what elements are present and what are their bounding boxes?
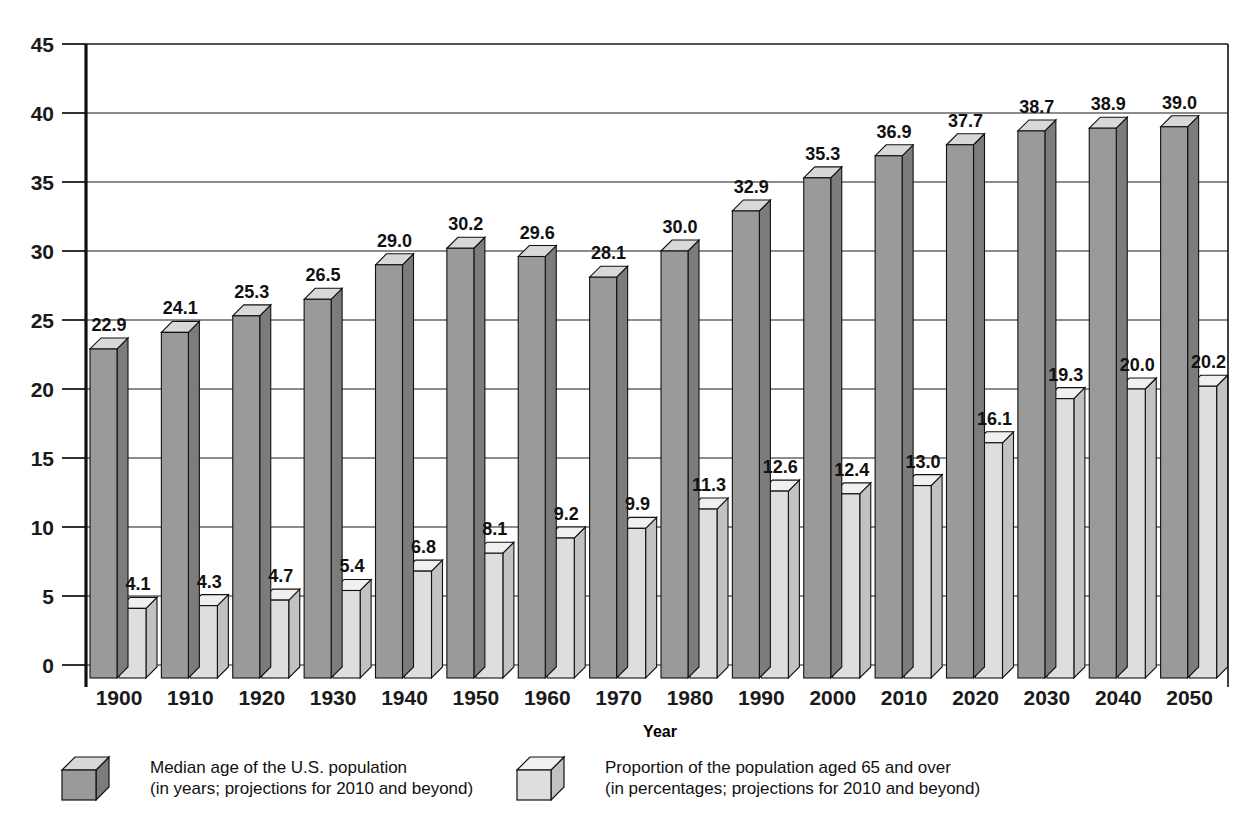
bar-front-face	[590, 277, 617, 678]
bar-value-label: 30.2	[448, 214, 483, 234]
bar-value-label: 19.3	[1048, 365, 1083, 385]
x-axis-tick-label: 1970	[595, 686, 642, 709]
bar-side-face	[360, 579, 371, 678]
bar-side-face	[217, 595, 228, 678]
bar-side-face	[1145, 378, 1156, 678]
bar-value-label: 16.1	[977, 409, 1012, 429]
bar-median-age[interactable]	[1161, 116, 1199, 678]
bar-side-face	[1188, 116, 1199, 678]
bar-median-age[interactable]	[947, 134, 985, 678]
bar-value-label: 24.1	[163, 298, 198, 318]
bar-side-face	[188, 321, 199, 678]
y-axis-tick-label: 35	[31, 171, 55, 194]
y-axis-tick-label: 5	[42, 585, 54, 608]
bar-value-label: 12.6	[763, 457, 798, 477]
bar-median-age[interactable]	[518, 246, 556, 678]
bar-median-age[interactable]	[1089, 117, 1127, 678]
bar-side-face	[117, 338, 128, 678]
x-axis-tick-label: 1930	[310, 686, 357, 709]
bar-side-face	[688, 240, 699, 678]
x-axis-tick-label: 2040	[1095, 686, 1142, 709]
bar-value-label: 12.4	[834, 460, 869, 480]
y-axis-tick-label: 40	[31, 102, 54, 125]
bar-value-label: 4.7	[268, 566, 293, 586]
bar-front-face	[804, 178, 831, 678]
bar-side-face	[1217, 375, 1228, 678]
bars-group	[90, 116, 1228, 678]
y-axis-tick-label: 10	[31, 516, 54, 539]
bar-side-face	[1045, 120, 1056, 678]
bar-value-label: 28.1	[591, 243, 626, 263]
bar-front-face	[1161, 127, 1188, 678]
y-axis-tick-label: 45	[31, 33, 55, 56]
bar-front-face	[304, 299, 331, 678]
x-axis-tick-label: 2030	[1024, 686, 1071, 709]
bar-side-face	[331, 288, 342, 678]
bar-median-age[interactable]	[447, 237, 485, 678]
bar-median-age[interactable]	[661, 240, 699, 678]
bar-side-face	[289, 589, 300, 678]
x-axis-tick-label: 1910	[167, 686, 214, 709]
bar-value-label: 32.9	[734, 177, 769, 197]
bar-side-face	[831, 167, 842, 678]
bar-front-face	[161, 332, 188, 678]
bar-side-face	[1116, 117, 1127, 678]
x-axis-tick-label: 1950	[453, 686, 500, 709]
bar-side-face	[860, 483, 871, 678]
bar-median-age[interactable]	[590, 266, 628, 678]
bar-median-age[interactable]	[233, 305, 271, 678]
legend-label-median-age: Median age of the U.S. population (in ye…	[150, 757, 473, 799]
bar-front-face	[90, 349, 117, 678]
bar-side-face	[403, 254, 414, 678]
legend-cube-front	[517, 770, 551, 800]
y-axis-tick-label: 20	[31, 378, 54, 401]
bar-median-age[interactable]	[732, 200, 770, 678]
bar-value-label: 4.1	[125, 574, 150, 594]
x-axis-tick-label: 1920	[238, 686, 285, 709]
bar-side-face	[788, 480, 799, 678]
bar-side-face	[1003, 432, 1014, 678]
bar-front-face	[376, 265, 403, 678]
bar-front-face	[233, 316, 260, 678]
x-axis-labels-group: 2050204020302020201020001990198019701960…	[96, 686, 1213, 709]
legend-swatch-median-age	[62, 757, 109, 800]
bar-median-age[interactable]	[376, 254, 414, 678]
bar-value-label: 8.1	[482, 519, 507, 539]
bar-median-age[interactable]	[304, 288, 342, 678]
bar-median-age[interactable]	[161, 321, 199, 678]
x-axis-tick-label: 2010	[881, 686, 928, 709]
bar-value-label: 36.9	[877, 122, 912, 142]
bar-side-face	[759, 200, 770, 678]
bar-side-face	[474, 237, 485, 678]
bar-front-face	[947, 145, 974, 678]
x-axis-tick-label: 2020	[952, 686, 999, 709]
bar-value-label: 5.4	[340, 556, 365, 576]
bar-value-label: 11.3	[692, 475, 726, 495]
bar-value-label: 25.3	[234, 282, 269, 302]
bar-value-label: 20.2	[1191, 352, 1226, 372]
bar-median-age[interactable]	[1018, 120, 1056, 678]
bar-value-label: 9.9	[625, 494, 650, 514]
bar-median-age[interactable]	[875, 145, 913, 678]
bar-value-label: 6.8	[411, 537, 436, 557]
bar-median-age[interactable]	[804, 167, 842, 678]
bar-side-face	[646, 517, 657, 678]
legend-swatch-proportion-65-over	[517, 757, 564, 800]
bar-median-age[interactable]	[90, 338, 128, 678]
bar-value-label: 35.3	[805, 144, 840, 164]
bar-side-face	[617, 266, 628, 678]
x-axis-title: Year	[643, 723, 677, 740]
bar-side-face	[902, 145, 913, 678]
bar-front-face	[875, 156, 902, 678]
x-axis-tick-label: 1960	[524, 686, 571, 709]
bar-front-face	[1018, 131, 1045, 678]
bar-value-label: 30.0	[662, 217, 697, 237]
bar-value-label: 9.2	[554, 504, 579, 524]
bar-side-face	[432, 560, 443, 678]
bar-front-face	[1089, 128, 1116, 678]
y-axis-tick-label: 0	[42, 654, 54, 677]
bar-side-face	[931, 475, 942, 678]
y-axis-tick-label: 30	[31, 240, 54, 263]
bar-side-face	[1074, 388, 1085, 678]
chart-container: 05101520253035404520.239.020.038.919.338…	[0, 0, 1259, 831]
